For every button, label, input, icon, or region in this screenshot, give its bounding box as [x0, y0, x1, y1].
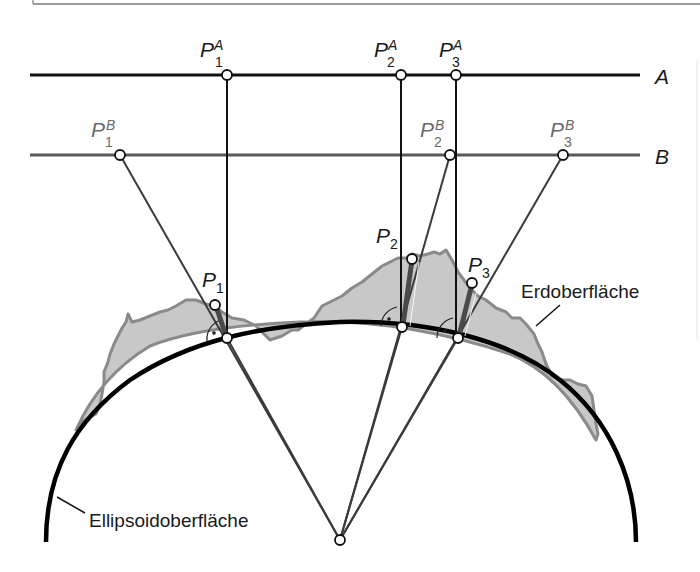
- ellipsoid-label: Ellipsoidoberfläche: [89, 510, 249, 531]
- foot-p3: [453, 333, 463, 343]
- apex-point: [335, 535, 345, 545]
- svg-text:B: B: [565, 117, 574, 133]
- foot-p1: [222, 333, 232, 343]
- point-p2-b: [445, 150, 455, 160]
- svg-text:P: P: [468, 253, 482, 276]
- geodetic-projection-diagram: A B P A 1 P A 2 P A 3 P B 1 P B 2 P B 3 …: [0, 0, 700, 572]
- point-p1: [210, 300, 220, 310]
- terrain-label: Erdoberfläche: [521, 281, 639, 302]
- svg-text:3: 3: [482, 265, 490, 281]
- line-b-label: B: [655, 145, 669, 168]
- point-p3-b: [558, 150, 568, 160]
- terrain-surface: [76, 250, 598, 440]
- svg-text:P: P: [550, 118, 564, 141]
- svg-text:P: P: [91, 118, 105, 141]
- svg-text:3: 3: [452, 54, 460, 70]
- point-p2: [407, 254, 417, 264]
- point-p3-a: [451, 70, 461, 80]
- foot-p2: [397, 322, 407, 332]
- svg-text:2: 2: [387, 54, 395, 70]
- svg-text:A: A: [452, 37, 462, 53]
- point-p1-a: [222, 70, 232, 80]
- svg-text:A: A: [387, 37, 397, 53]
- svg-text:P: P: [202, 268, 216, 291]
- ellipsoid-normals: [227, 327, 458, 540]
- point-p1-b: [115, 150, 125, 160]
- point-p3: [467, 278, 477, 288]
- svg-text:P: P: [374, 38, 388, 61]
- svg-text:P: P: [420, 118, 434, 141]
- terrain-label-group: Erdoberfläche: [521, 281, 639, 326]
- svg-text:1: 1: [105, 134, 113, 150]
- svg-text:1: 1: [216, 280, 224, 296]
- svg-text:3: 3: [564, 134, 572, 150]
- svg-text:A: A: [213, 37, 223, 53]
- line-a-label: A: [653, 65, 669, 88]
- svg-text:B: B: [106, 117, 115, 133]
- svg-text:2: 2: [390, 236, 398, 252]
- svg-text:P: P: [439, 38, 453, 61]
- ellipsoid-label-group: Ellipsoidoberfläche: [57, 497, 249, 531]
- labels-projection-b: P B 1 P B 2 P B 3: [91, 117, 574, 150]
- labels-projection-a: P A 1 P A 2 P A 3: [200, 37, 462, 70]
- svg-text:1: 1: [215, 54, 223, 70]
- svg-text:2: 2: [434, 134, 442, 150]
- point-p2-a: [396, 70, 406, 80]
- svg-text:P: P: [200, 38, 214, 61]
- svg-text:P: P: [376, 224, 390, 247]
- svg-text:B: B: [435, 117, 444, 133]
